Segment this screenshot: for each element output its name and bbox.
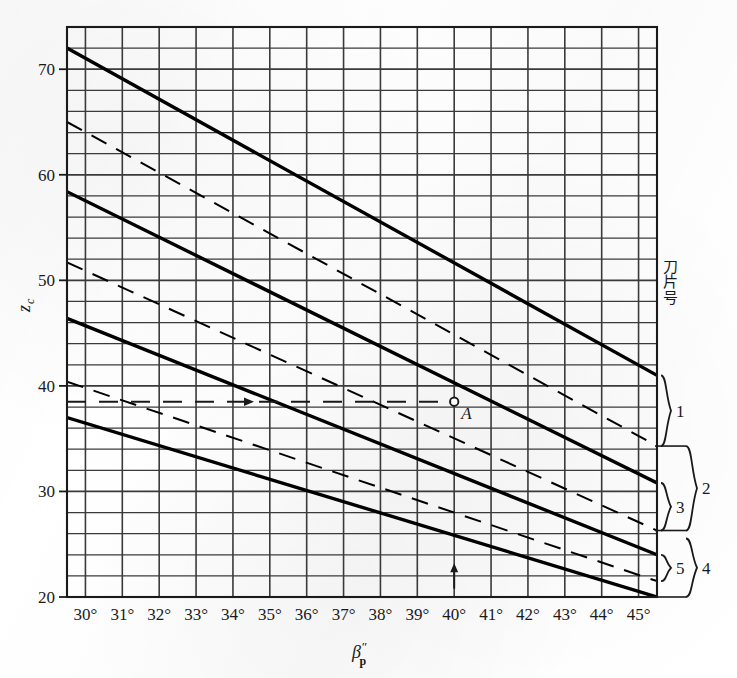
legend-numbers: 12345: [676, 402, 711, 578]
curve-2-solid: [67, 192, 657, 483]
x-tick-label: 42°: [516, 605, 540, 624]
legend-title-char-2: 号: [661, 291, 679, 306]
marker-point-A: [450, 398, 458, 406]
gridlines-vertical: [85, 27, 638, 597]
y-tick-label: 40: [38, 377, 55, 396]
curve-3-dashed: [67, 382, 657, 582]
point-label-A: A: [460, 404, 472, 423]
legend-brace-5: [661, 555, 671, 581]
legend-number-2: 2: [702, 479, 711, 498]
y-tick-label: 50: [38, 271, 55, 290]
x-tick-label: 45°: [627, 605, 651, 624]
x-tick-label: 40°: [442, 605, 466, 624]
y-tick-label: 60: [38, 166, 55, 185]
x-tick-label: 30°: [74, 605, 98, 624]
legend-number-4: 4: [702, 559, 711, 578]
y-tick-label: 20: [38, 588, 55, 607]
legend-brace-1: [661, 375, 671, 446]
legend-brace-3: [661, 483, 671, 531]
chart-root: A 203040506070 30°31°32°33°34°35°36°37°3…: [0, 0, 737, 678]
x-tick-label: 32°: [147, 605, 171, 624]
y-axis-title: zc: [14, 298, 37, 313]
construction-arrow-up-head: [450, 563, 458, 572]
legend-number-1: 1: [676, 402, 685, 421]
plot-border: [67, 27, 657, 597]
x-tick-label: 37°: [332, 605, 356, 624]
x-tick-label: 31°: [110, 605, 134, 624]
x-tick-label: 34°: [221, 605, 245, 624]
y-axis-tick-marks: [59, 69, 67, 597]
x-tick-label: 41°: [479, 605, 503, 624]
y-tick-label: 70: [38, 60, 55, 79]
y-axis-tick-labels: 203040506070: [38, 60, 55, 607]
y-tick-label: 30: [38, 482, 55, 501]
x-tick-label: 35°: [258, 605, 282, 624]
curve-4-solid: [67, 418, 657, 597]
y-axis-title-group: zc: [14, 298, 37, 313]
x-tick-label: 39°: [405, 605, 429, 624]
legend-number-5: 5: [676, 559, 685, 578]
x-axis-tick-labels: 30°31°32°33°34°35°36°37°38°39°40°41°42°4…: [74, 605, 651, 624]
x-tick-label: 33°: [184, 605, 208, 624]
gridlines-horizontal: [67, 27, 657, 597]
legend-title-blade-number: 刀 片 号: [661, 260, 679, 306]
x-axis-title: β″p: [351, 639, 367, 668]
construction-arrow-right: [244, 398, 254, 406]
x-tick-label: 36°: [295, 605, 319, 624]
legend-brace-4: [686, 539, 697, 598]
x-tick-label: 38°: [369, 605, 393, 624]
x-tick-label: 44°: [590, 605, 614, 624]
chart-svg: A 203040506070 30°31°32°33°34°35°36°37°3…: [0, 0, 737, 678]
x-tick-label: 43°: [553, 605, 577, 624]
legend-brace-2: [686, 446, 697, 530]
legend-number-3: 3: [676, 498, 685, 517]
curve-1-solid: [67, 48, 657, 375]
curve-3-solid: [67, 318, 657, 554]
x-axis-title-group: β″p: [351, 639, 367, 668]
